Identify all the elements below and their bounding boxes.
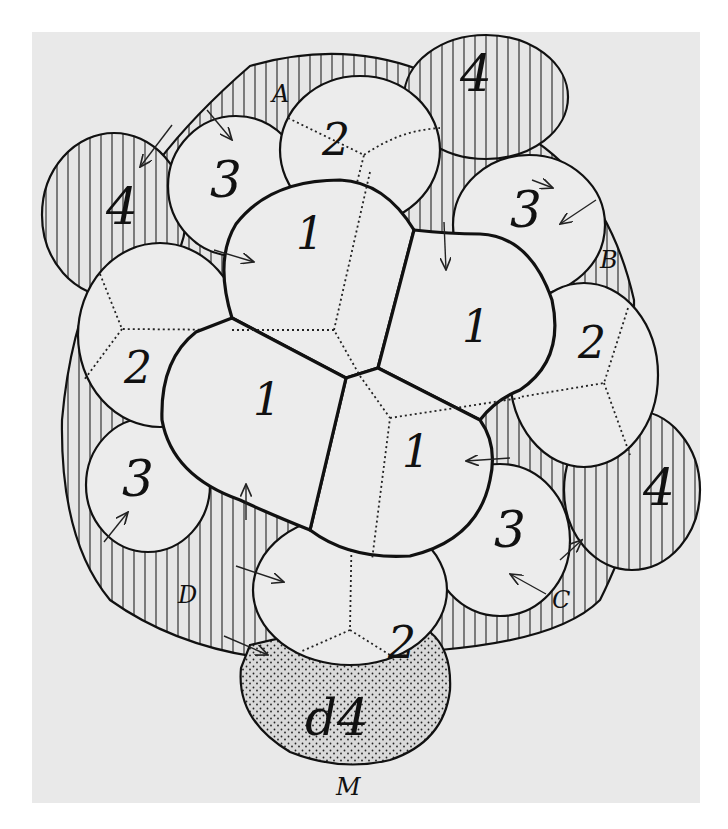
label-4-right: 4: [642, 459, 675, 517]
label-3-B: 3: [510, 181, 542, 239]
label-quadrant-C: C: [552, 586, 570, 614]
label-quadrant-A: A: [270, 80, 289, 108]
label-4-left: 4: [105, 178, 138, 236]
label-2-D: 2: [123, 342, 152, 393]
label-quadrant-D: D: [177, 581, 197, 609]
label-3-D: 3: [122, 450, 154, 508]
label-M: M: [335, 773, 362, 801]
label-2-C: 2: [387, 617, 416, 668]
label-1-A: 1: [296, 208, 324, 259]
label-3-A: 3: [210, 151, 242, 209]
label-1-B: 1: [462, 301, 490, 352]
cleavage-diagram: 1 1 1 1 2 2 2 2 3 3 3 3 4 4 4 A B C D d4…: [0, 0, 728, 829]
label-quadrant-B: B: [599, 246, 618, 274]
label-2-A: 2: [321, 114, 350, 165]
label-1-C: 1: [402, 426, 430, 477]
label-d4: d4: [305, 689, 369, 747]
label-1-D: 1: [253, 374, 281, 425]
label-2-B: 2: [577, 317, 606, 368]
label-3-C: 3: [494, 501, 526, 559]
label-4-top: 4: [459, 45, 492, 103]
